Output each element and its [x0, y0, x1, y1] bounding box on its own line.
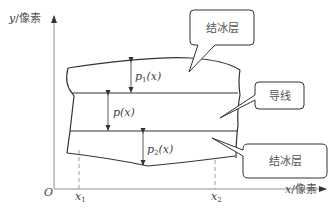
x1-label: x1: [75, 190, 86, 204]
callout-lower-ice-label: 结冰层: [269, 155, 302, 168]
x-axis-label: x/像素: [285, 183, 317, 196]
ice-coating-diagram: y/像素 x/像素 O x1 x2 p1(x) p(x): [0, 0, 334, 212]
conductor: [70, 93, 238, 131]
callout-upper-ice-label: 结冰层: [206, 22, 239, 35]
x2-label: x2: [211, 190, 222, 204]
p2-label: p2(x): [147, 143, 173, 157]
y-axis-label: y/像素: [8, 12, 41, 25]
callout-conductor: 导线: [220, 82, 304, 118]
p-label: p(x): [113, 106, 135, 119]
callout-conductor-label: 导线: [269, 89, 291, 103]
right-edge: [236, 70, 240, 158]
p1-label: p1(x): [135, 70, 161, 84]
callout-lower-ice: 结冰层: [212, 138, 327, 178]
origin-label: O: [44, 186, 53, 199]
